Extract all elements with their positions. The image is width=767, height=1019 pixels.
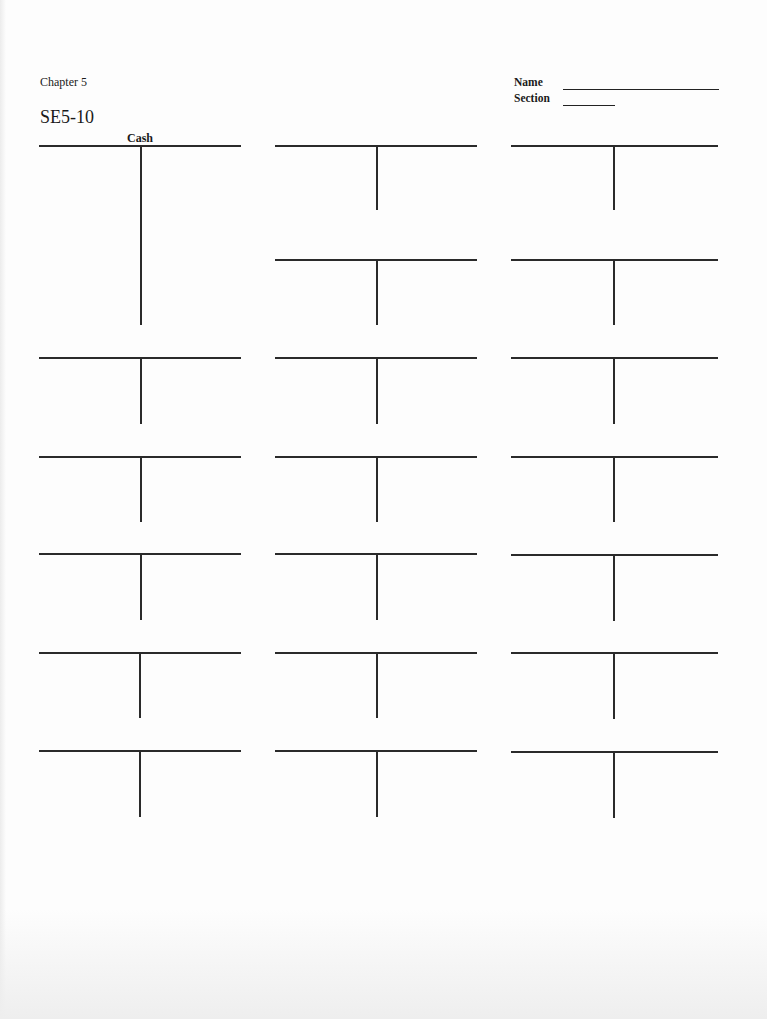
section-label: Section [514, 92, 550, 104]
t-account-top-line [511, 145, 718, 147]
t-account-top-line [511, 456, 718, 458]
scan-edge-shadow [0, 0, 6, 1019]
t-account-top-line [511, 554, 718, 556]
t-account-r3c2[interactable] [275, 357, 477, 424]
t-account-divider-line [613, 259, 615, 325]
t-account-r1c2[interactable] [275, 145, 477, 210]
t-account-r6c3[interactable] [511, 652, 718, 719]
t-account-top-line [511, 652, 718, 654]
name-field-line[interactable] [563, 89, 719, 90]
t-account-r1c3[interactable] [511, 145, 718, 210]
t-account-divider-line [613, 456, 615, 522]
t-account-divider-line [613, 554, 615, 621]
t-account-r4c3[interactable] [511, 456, 718, 522]
t-account-top-line [511, 357, 718, 359]
t-account-divider-line [140, 145, 142, 325]
t-account-divider-line [376, 145, 378, 210]
t-account-divider-line [376, 357, 378, 424]
t-account-r5c2[interactable] [275, 553, 477, 620]
t-account-cash[interactable]: Cash [39, 145, 241, 325]
t-account-r3c1[interactable] [39, 357, 241, 424]
t-account-r4c1[interactable] [39, 456, 241, 522]
exercise-title: SE5-10 [40, 107, 94, 128]
t-account-divider-line [140, 553, 142, 620]
t-account-r2c2[interactable] [275, 259, 477, 325]
t-account-divider-line [376, 456, 378, 522]
t-account-r3c3[interactable] [511, 357, 718, 424]
t-account-r6c1[interactable] [39, 652, 241, 718]
t-account-r7c2[interactable] [275, 750, 477, 817]
t-account-r6c2[interactable] [275, 652, 477, 718]
t-account-r4c2[interactable] [275, 456, 477, 522]
t-account-r7c3[interactable] [511, 751, 718, 818]
t-account-top-line [511, 259, 718, 261]
t-account-divider-line [613, 357, 615, 424]
t-account-r5c3[interactable] [511, 554, 718, 621]
name-label: Name [514, 76, 543, 88]
t-account-divider-line [613, 751, 615, 818]
scan-bottom-shading [0, 909, 767, 1019]
chapter-label: Chapter 5 [40, 75, 87, 90]
t-account-divider-line [613, 145, 615, 210]
t-account-divider-line [140, 456, 142, 522]
t-account-title: Cash [39, 131, 241, 146]
t-account-divider-line [376, 553, 378, 620]
t-account-divider-line [139, 750, 141, 817]
t-account-divider-line [376, 750, 378, 817]
t-account-divider-line [376, 652, 378, 718]
t-account-divider-line [139, 652, 141, 718]
t-account-r7c1[interactable] [39, 750, 241, 817]
t-account-divider-line [376, 259, 378, 325]
t-account-r5c1[interactable] [39, 553, 241, 620]
t-account-top-line [511, 751, 718, 753]
t-account-divider-line [140, 357, 142, 424]
t-account-r2c3[interactable] [511, 259, 718, 325]
t-account-divider-line [613, 652, 615, 719]
section-field-line[interactable] [563, 105, 615, 106]
